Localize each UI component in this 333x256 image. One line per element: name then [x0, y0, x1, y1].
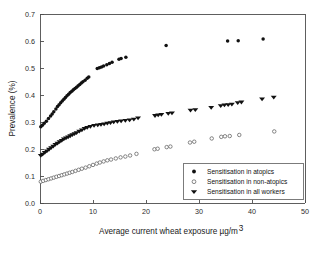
data-point [169, 145, 173, 149]
y-tick-label: 0.0 [25, 199, 35, 208]
data-point [273, 130, 277, 134]
data-point [188, 109, 194, 113]
data-point [164, 44, 168, 48]
data-point [165, 145, 169, 149]
data-point [208, 106, 214, 110]
legend-label: Sensitisation in atopics [207, 168, 275, 176]
x-tick-label: 40 [248, 207, 256, 216]
data-point [261, 37, 265, 41]
y-tick-label: 0.4 [25, 91, 35, 100]
scatter-plot: 0.00.10.20.30.40.50.60.701020304050 Sens… [0, 0, 333, 256]
data-point [127, 118, 133, 122]
data-point [109, 158, 113, 162]
data-point [128, 154, 132, 158]
legend-label: Sensitisation in non-atopics [207, 178, 288, 186]
data-point [210, 137, 214, 141]
data-point [122, 119, 128, 123]
y-axis-title: Prevalence (%) [8, 80, 17, 136]
y-tick-label: 0.7 [25, 10, 35, 19]
data-point [192, 108, 198, 112]
data-point [106, 159, 110, 163]
chart-figure: 0.00.10.20.30.40.50.60.701020304050 Sens… [0, 0, 333, 256]
chart-legend: Sensitisation in atopicsSensitisation in… [183, 163, 303, 199]
data-point [259, 97, 265, 101]
data-point [135, 152, 139, 156]
y-tick-label: 0.3 [25, 118, 35, 127]
data-point [131, 118, 137, 122]
data-point [91, 163, 95, 167]
data-point [124, 55, 128, 59]
y-tick-label: 0.5 [25, 64, 35, 73]
data-point [87, 75, 91, 79]
data-point [192, 140, 196, 144]
x-tick-label: 0 [38, 207, 42, 216]
data-point [110, 61, 114, 65]
x-axis-title-superscript: 3 [239, 224, 244, 233]
x-tick-label: 30 [195, 207, 203, 216]
data-point [226, 39, 230, 43]
legend-label: Sensitisation in all workers [207, 188, 285, 195]
data-point [98, 161, 102, 165]
y-tick-label: 0.2 [25, 145, 35, 154]
data-point [238, 133, 242, 137]
y-tick-label: 0.1 [25, 172, 35, 181]
data-point [188, 141, 192, 145]
series-0 [39, 37, 265, 128]
data-point [223, 135, 227, 139]
legend-marker-open-circle [192, 180, 196, 184]
data-point [88, 165, 92, 169]
data-point [84, 166, 88, 170]
y-tick-label: 0.6 [25, 37, 35, 46]
data-point [156, 147, 160, 151]
data-point [119, 156, 123, 160]
data-point [102, 160, 106, 164]
data-point [236, 39, 240, 43]
x-tick-label: 20 [142, 207, 150, 216]
x-tick-label: 10 [89, 207, 97, 216]
data-point [220, 135, 224, 139]
x-axis-title: Average current wheat exposure µg/m [99, 227, 238, 236]
x-tick-label: 50 [301, 207, 309, 216]
data-point [119, 57, 123, 61]
data-point [228, 134, 232, 138]
data-point [114, 157, 118, 161]
data-point [124, 155, 128, 159]
legend-marker-filled-circle [192, 170, 196, 174]
data-point [271, 96, 277, 100]
data-point [80, 167, 84, 171]
data-series-layer [38, 37, 277, 183]
data-point [102, 64, 106, 68]
